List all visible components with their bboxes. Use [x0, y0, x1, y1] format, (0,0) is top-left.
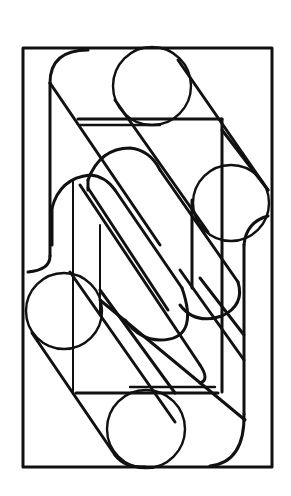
drawing-svg [0, 0, 291, 496]
geometric-drawing [0, 0, 291, 496]
bottom-left-capsule [32, 270, 244, 467]
bottom-circle [107, 390, 185, 468]
outer-rectangle [23, 48, 272, 467]
top-left-hook [28, 50, 160, 272]
left-circle [26, 273, 102, 349]
